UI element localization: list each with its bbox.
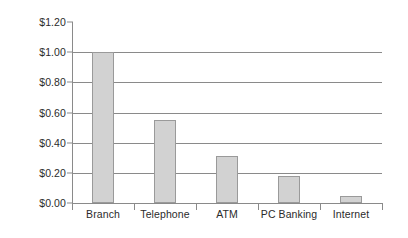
x-axis-line: [72, 203, 383, 204]
x-axis-category-label: Branch: [86, 209, 120, 220]
plot-area: [72, 22, 382, 203]
y-axis-tick-label: $1.00: [20, 47, 66, 58]
y-axis-tick-label: $0.60: [20, 107, 66, 118]
y-axis-label-group: $0.00$0.20$0.40$0.60$0.80$1.00$1.20: [14, 0, 66, 238]
bar: [154, 120, 176, 203]
gridline: [72, 143, 382, 144]
y-axis-tick-label: $0.40: [20, 137, 66, 148]
y-axis-tick-label: $0.80: [20, 77, 66, 88]
gridline: [72, 113, 382, 114]
y-axis-tick-label: $0.00: [20, 198, 66, 209]
bar-chart: $0.00$0.20$0.40$0.60$0.80$1.00$1.20 Bran…: [0, 0, 408, 238]
x-axis-category-label: ATM: [216, 209, 238, 220]
x-axis-category-label: Internet: [333, 209, 369, 220]
bar: [340, 196, 362, 203]
y-axis-tick-label: $0.20: [20, 168, 66, 179]
gridline: [72, 52, 382, 53]
x-axis-category-label: Telephone: [140, 209, 189, 220]
bar: [278, 176, 300, 203]
bar: [216, 156, 238, 203]
y-axis-tick-label: $1.20: [20, 17, 66, 28]
x-axis-label-group: BranchTelephoneATMPC BankingInternet: [72, 209, 383, 229]
gridline: [72, 82, 382, 83]
bar: [92, 52, 114, 203]
x-axis-category-label: PC Banking: [261, 209, 317, 220]
